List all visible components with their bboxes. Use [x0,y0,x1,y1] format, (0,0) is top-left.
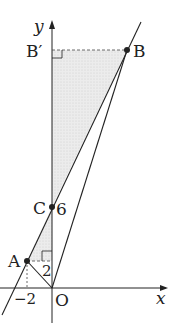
label-o: O [55,292,69,309]
tick-label-minus2: −2 [14,292,36,307]
shaded-region [52,50,127,207]
y-axis-arrow [49,20,55,29]
point-c [49,204,55,210]
x-axis-label: x [156,290,166,307]
y-axis-label: y [34,18,44,35]
point-b [124,47,130,53]
tick-label-6: 6 [56,201,67,218]
label-c: C [33,200,46,217]
label-b-prime: B′ [26,43,42,60]
point-a [24,258,30,264]
label-a: A [8,253,20,270]
coordinate-diagram: y x B′ B C 6 A 2 −2 O [0,0,170,323]
label-b: B [133,43,146,60]
tick-label-2: 2 [42,264,52,279]
